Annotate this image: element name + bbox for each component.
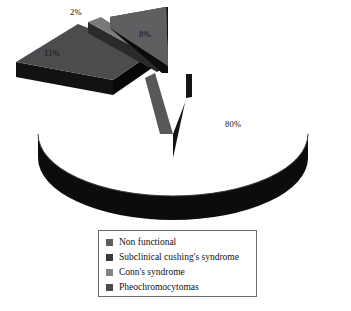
legend-swatch-pheo	[106, 284, 113, 291]
pie-label-conns: 2%	[70, 8, 82, 17]
legend-item-conns: Conn's syndrome	[106, 265, 256, 280]
pie-label-pheo: 8%	[139, 30, 151, 39]
legend-swatch-conns	[106, 269, 113, 276]
legend-item-non-functional: Non functional	[106, 235, 256, 250]
legend-label-pheo: Pheochromocytomas	[119, 283, 199, 293]
pie-notch-wall-right	[186, 74, 192, 98]
legend-label-subclinical: Subclinical cushing's syndrome	[119, 253, 239, 263]
legend-label-conns: Conn's syndrome	[119, 268, 185, 278]
pie-label-subclinical: 11%	[44, 49, 60, 58]
pie-chart-graphic	[0, 0, 351, 235]
legend-swatch-non-functional	[106, 239, 113, 246]
pie-chart-figure: 80% 11% 2% 8% Non functional Subclinical…	[0, 0, 351, 311]
legend-item-pheo: Pheochromocytomas	[106, 280, 256, 295]
legend-item-subclinical: Subclinical cushing's syndrome	[106, 250, 256, 265]
legend-swatch-subclinical	[106, 254, 113, 261]
pie-label-non-functional: 80%	[225, 120, 241, 129]
chart-legend: Non functional Subclinical cushing's syn…	[98, 230, 257, 297]
legend-label-non-functional: Non functional	[119, 238, 176, 248]
pie-slice-non-functional	[38, 73, 308, 220]
